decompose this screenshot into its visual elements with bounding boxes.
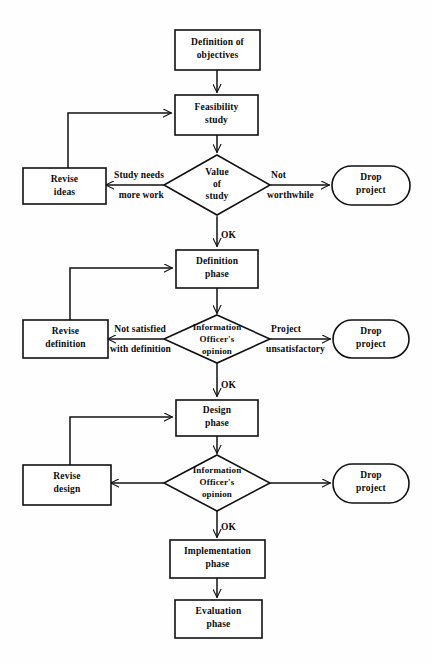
design-phase-label-line1: Design xyxy=(203,405,232,415)
information-officer-opinion-2-label-line2: Officer's xyxy=(200,477,235,487)
edge-label-not-satisfied-with-definition-line2: with definition xyxy=(110,344,172,354)
evaluation-phase-label-line2: phase xyxy=(207,619,231,629)
node-drop-project-1[interactable]: Drop project xyxy=(332,166,410,205)
connector-revise-design-to-design-phase xyxy=(70,417,172,465)
connector-revise-ideas-to-feasibility xyxy=(68,113,171,168)
revise-design-label-line1: Revise xyxy=(53,471,80,481)
edge-label-project-unsatisfactory-line1: Project xyxy=(271,324,302,334)
revise-definition-label-line2: definition xyxy=(45,339,86,349)
drop-project-2-label-line1: Drop xyxy=(360,326,382,336)
node-feasibility-study[interactable]: Feasibility study xyxy=(175,95,258,135)
node-evaluation-phase[interactable]: Evaluation phase xyxy=(175,600,262,638)
node-definition-phase[interactable]: Definition phase xyxy=(176,250,258,288)
information-officer-opinion-1-label-line3: opinion xyxy=(202,346,232,356)
edge-label-ok-2: OK xyxy=(221,380,236,390)
feasibility-study-label-line2: study xyxy=(205,115,228,125)
node-information-officer-opinion-1[interactable]: Information Officer's opinion xyxy=(164,315,270,363)
value-of-study-label-line1: Value xyxy=(205,167,229,177)
information-officer-opinion-2-label-line1: Information xyxy=(193,465,242,475)
value-of-study-label-line2: of xyxy=(213,179,222,189)
connector-revise-definition-to-definition-phase xyxy=(70,268,172,320)
drop-project-3-label-line1: Drop xyxy=(360,470,382,480)
node-revise-design[interactable]: Revise design xyxy=(23,465,111,505)
feasibility-study-label-line1: Feasibility xyxy=(195,102,239,112)
node-design-phase[interactable]: Design phase xyxy=(176,400,258,436)
node-revise-definition[interactable]: Revise definition xyxy=(23,320,108,358)
node-implementation-phase[interactable]: Implementation phase xyxy=(170,540,265,578)
information-officer-opinion-2-label-line3: opinion xyxy=(202,489,232,499)
implementation-phase-label-line1: Implementation xyxy=(184,546,252,556)
drop-project-2-label-line2: project xyxy=(356,339,387,349)
edge-label-study-needs-more-work-line2: more work xyxy=(119,190,165,200)
information-officer-opinion-1-label-line2: Officer's xyxy=(200,334,235,344)
edge-label-ok-1: OK xyxy=(221,230,236,240)
definition-phase-label-line1: Definition xyxy=(196,256,239,266)
design-phase-label-line2: phase xyxy=(205,418,229,428)
drop-project-1-label-line2: project xyxy=(356,185,387,195)
evaluation-phase-label-line1: Evaluation xyxy=(196,606,242,616)
information-officer-opinion-1-label-line1: Information xyxy=(193,322,242,332)
node-information-officer-opinion-2[interactable]: Information Officer's opinion xyxy=(164,455,270,511)
drop-project-3-label-line2: project xyxy=(356,483,387,493)
implementation-phase-label-line2: phase xyxy=(206,559,230,569)
revise-ideas-label-line1: Revise xyxy=(51,174,78,184)
definition-of-objectives-label-line2: objectives xyxy=(197,50,239,60)
revise-design-label-line2: design xyxy=(54,484,81,494)
drop-project-1-label-line1: Drop xyxy=(360,172,382,182)
edge-label-not-satisfied-with-definition-line1: Not satisfied xyxy=(114,324,166,334)
edge-label-not-worthwhile-line2: worthwhile xyxy=(267,190,314,200)
node-revise-ideas[interactable]: Revise ideas xyxy=(23,168,106,204)
node-drop-project-2[interactable]: Drop project xyxy=(333,320,409,358)
revise-ideas-label-line2: ideas xyxy=(54,187,75,197)
definition-of-objectives-label-line1: Definition of xyxy=(191,37,245,47)
value-of-study-label-line3: study xyxy=(206,191,229,201)
definition-phase-label-line2: phase xyxy=(205,269,229,279)
node-definition-of-objectives[interactable]: Definition of objectives xyxy=(175,30,260,70)
flowchart-svg: Definition of objectives Feasibility stu… xyxy=(0,0,432,663)
edge-label-not-worthwhile-line1: Not xyxy=(271,170,287,180)
edge-label-study-needs-more-work-line1: Study needs xyxy=(114,170,164,180)
revise-definition-label-line1: Revise xyxy=(52,326,79,336)
flowchart-canvas: Definition of objectives Feasibility stu… xyxy=(0,0,432,663)
edge-label-ok-3: OK xyxy=(221,522,236,532)
node-value-of-study[interactable]: Value of study xyxy=(164,155,270,215)
node-drop-project-3[interactable]: Drop project xyxy=(333,464,409,503)
edge-label-project-unsatisfactory-line2: unsatisfactory xyxy=(266,344,325,354)
